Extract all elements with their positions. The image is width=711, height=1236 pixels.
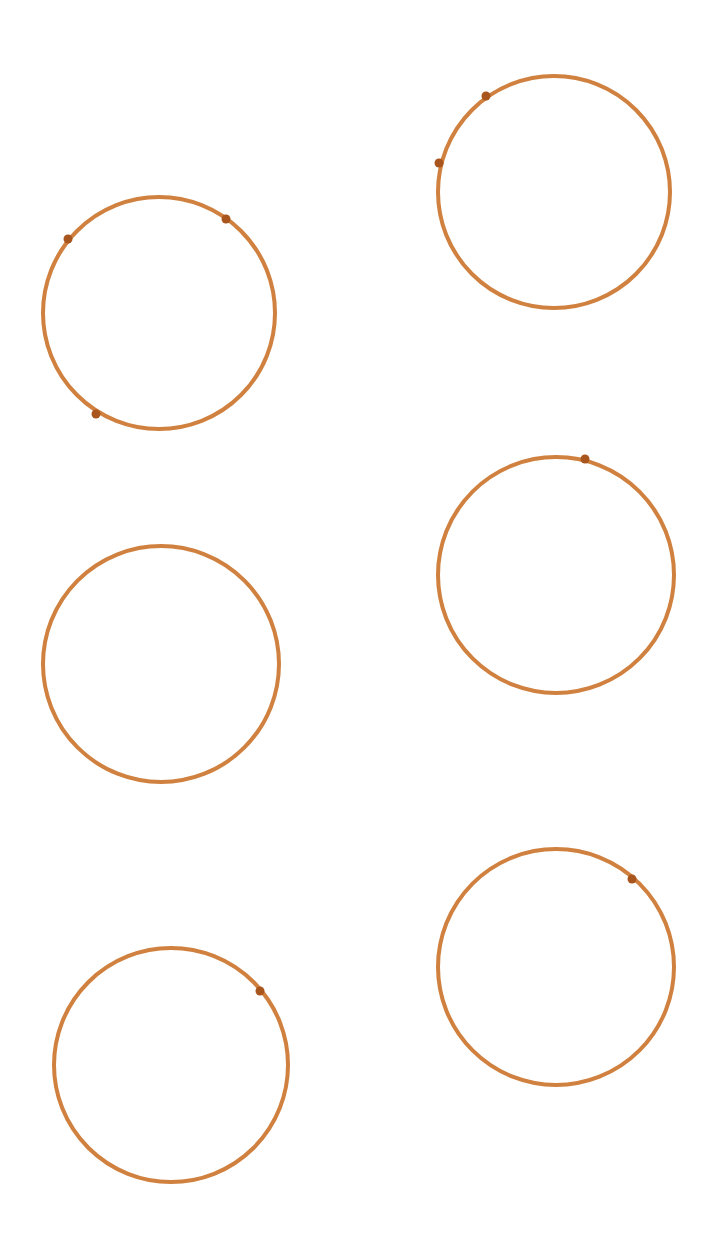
ring-stroke — [43, 197, 275, 429]
ring-stroke — [438, 76, 670, 308]
ring-stroke — [54, 948, 288, 1182]
ring-1 — [43, 197, 275, 429]
ring-stroke — [438, 849, 674, 1085]
ink-blot — [64, 235, 73, 244]
ring-3 — [43, 546, 279, 782]
ink-blot — [222, 215, 231, 224]
ink-blot — [581, 455, 590, 464]
ring-stroke — [438, 457, 674, 693]
ring-5 — [54, 948, 288, 1182]
ring-4 — [438, 455, 674, 694]
ring-2 — [435, 76, 671, 308]
ring-6 — [438, 849, 674, 1085]
ink-blot — [92, 410, 101, 419]
ink-blot — [256, 987, 265, 996]
ink-blot — [482, 92, 491, 101]
ink-blot — [435, 159, 444, 168]
ring-stroke — [43, 546, 279, 782]
ink-blot — [628, 875, 637, 884]
drawing-canvas — [0, 0, 711, 1236]
circle-group — [43, 76, 674, 1182]
